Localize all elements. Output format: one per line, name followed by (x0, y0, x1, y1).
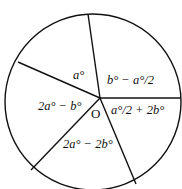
radius-top (88, 14, 100, 98)
sector-label-b-minus-half-a: b° − a°/2 (107, 74, 154, 87)
sector-label-half-a-plus-2b: a°/2 + 2b° (111, 104, 164, 117)
center-label-o: O (91, 107, 100, 120)
sector-label-2a-minus-2b: 2a° − 2b° (63, 138, 113, 151)
circle-diagram: a° b° − a°/2 a°/2 + 2b° 2a° − 2b° 2a° − … (0, 0, 182, 189)
circle-outline (5, 14, 181, 189)
radius-upper-left (18, 62, 100, 98)
sector-label-a: a° (73, 69, 84, 82)
sector-label-2a-minus-b: 2a° − b° (38, 100, 81, 113)
circle-figure (0, 0, 182, 189)
